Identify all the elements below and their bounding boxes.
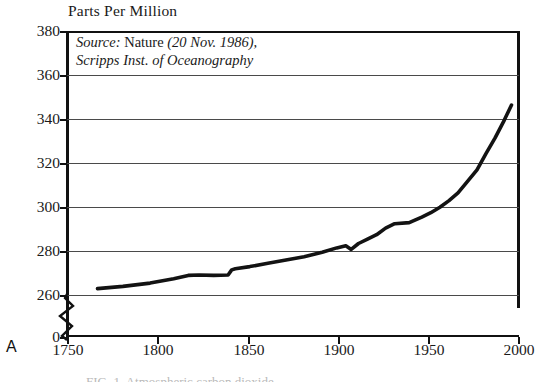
page-title: Parts Per Million: [68, 2, 177, 20]
x-tick-label-1900: 1900: [324, 341, 355, 359]
source-date: (20 Nov. 1986),: [167, 34, 257, 50]
panel-letter: A: [6, 338, 17, 356]
y-tick-label-340: 340: [37, 110, 60, 128]
x-tick-label-1750: 1750: [53, 341, 84, 359]
x-tick-label-1800: 1800: [143, 341, 174, 359]
y-axis-labels: 380 360 340 320 300 280 260 0: [14, 0, 60, 382]
source-line-2: Scripps Inst. of Oceanography: [76, 52, 257, 70]
x-tick-label-1950: 1950: [414, 341, 445, 359]
co2-figure: Parts Per Million 380 360 340 320 300 28…: [0, 0, 558, 382]
source-label: Source:: [76, 34, 121, 50]
y-tick-label-300: 300: [37, 198, 60, 216]
source-annotation: Source: Nature (20 Nov. 1986), Scripps I…: [76, 34, 257, 69]
figure-caption-partial: FIG. 1. Atmospheric carbon dioxide: [86, 374, 274, 382]
y-tick-label-380: 380: [37, 22, 60, 40]
co2-data-curve: [66, 31, 521, 341]
y-tick-label-320: 320: [37, 154, 60, 172]
x-tick-label-2000: 2000: [504, 341, 535, 359]
source-publication: Nature: [124, 34, 163, 50]
source-line-1: Source: Nature (20 Nov. 1986),: [76, 34, 257, 52]
y-tick-label-360: 360: [37, 66, 60, 84]
y-tick-label-280: 280: [37, 242, 60, 260]
x-tick-label-1850: 1850: [234, 341, 265, 359]
